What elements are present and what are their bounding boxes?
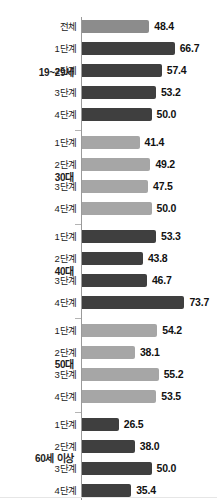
- tier-label: 3단계: [17, 86, 77, 100]
- bar: [82, 368, 159, 381]
- bar: [82, 462, 152, 475]
- value-label: 55.2: [164, 367, 184, 382]
- value-label: 41.4: [145, 135, 165, 150]
- chart-row: 1단계53.3: [0, 230, 217, 244]
- value-label: 57.4: [167, 63, 187, 78]
- tier-label: 4단계: [17, 296, 77, 310]
- value-label: 73.7: [189, 295, 209, 310]
- tier-label: 4단계: [17, 202, 77, 216]
- value-label: 46.7: [152, 273, 172, 288]
- tier-label: 1단계: [17, 230, 77, 244]
- bar: [82, 180, 148, 193]
- value-label: 54.2: [162, 323, 182, 338]
- group-separator-tick: [75, 224, 81, 225]
- chart-row: 4단계73.7: [0, 296, 217, 310]
- bar: [82, 418, 119, 431]
- chart-row: 3단계53.2: [0, 86, 217, 100]
- plot-area: 전체48.41단계66.72단계57.43단계53.24단계50.019~29세…: [0, 0, 217, 503]
- bar: [82, 484, 131, 497]
- value-label: 50.0: [157, 461, 177, 476]
- value-label: 35.4: [136, 483, 156, 498]
- tier-label: 4단계: [17, 108, 77, 122]
- value-label: 43.8: [148, 251, 168, 266]
- chart-row: 전체48.4: [0, 20, 217, 34]
- chart-row: 1단계41.4: [0, 136, 217, 150]
- bar: [82, 86, 156, 99]
- bar: [82, 346, 135, 359]
- chart-row: 4단계35.4: [0, 484, 217, 498]
- chart-row: 1단계54.2: [0, 324, 217, 338]
- age-group-label: 19~29세: [0, 64, 74, 79]
- bar: [82, 324, 157, 337]
- tier-label: 전체: [17, 20, 77, 34]
- group-separator-tick: [75, 412, 81, 413]
- tier-label: 1단계: [17, 136, 77, 150]
- value-label: 53.5: [161, 389, 181, 404]
- value-label: 50.0: [157, 107, 177, 122]
- bar-chart: 전체48.41단계66.72단계57.43단계53.24단계50.019~29세…: [0, 0, 217, 503]
- bar: [82, 274, 147, 287]
- group-separator-tick: [75, 130, 81, 131]
- value-label: 38.1: [140, 345, 160, 360]
- age-group-label: 40대: [0, 263, 74, 278]
- bar: [82, 252, 143, 265]
- bar: [82, 296, 184, 309]
- age-group-label: 30대: [0, 169, 74, 184]
- bar: [82, 440, 135, 453]
- bar: [82, 202, 152, 215]
- value-label: 48.4: [154, 19, 174, 34]
- bar: [82, 64, 162, 77]
- chart-row: 4단계53.5: [0, 390, 217, 404]
- chart-row: 4단계50.0: [0, 108, 217, 122]
- bar: [82, 20, 149, 33]
- bar: [82, 42, 175, 55]
- bar: [82, 108, 152, 121]
- value-label: 53.2: [161, 85, 181, 100]
- chart-row: 1단계26.5: [0, 418, 217, 432]
- tier-label: 4단계: [17, 390, 77, 404]
- value-label: 66.7: [180, 41, 200, 56]
- bar: [82, 158, 150, 171]
- tier-label: 4단계: [17, 484, 77, 498]
- chart-row: 1단계66.7: [0, 42, 217, 56]
- value-label: 38.0: [140, 439, 160, 454]
- age-group-label: 60세 이상: [0, 450, 74, 465]
- bottom-rule: [0, 497, 217, 498]
- bar: [82, 136, 140, 149]
- tier-label: 1단계: [17, 418, 77, 432]
- chart-row: 4단계50.0: [0, 202, 217, 216]
- value-label: 26.5: [124, 417, 144, 432]
- bar: [82, 390, 156, 403]
- group-separator-tick: [75, 318, 81, 319]
- age-group-label: 50대: [0, 356, 74, 371]
- value-label: 49.2: [155, 157, 175, 172]
- bar: [82, 230, 156, 243]
- value-label: 53.3: [161, 229, 181, 244]
- value-label: 47.5: [153, 179, 173, 194]
- value-label: 50.0: [157, 201, 177, 216]
- tier-label: 1단계: [17, 324, 77, 338]
- tier-label: 1단계: [17, 42, 77, 56]
